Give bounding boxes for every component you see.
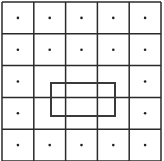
grid-lines — [2, 2, 161, 161]
grid-dot — [17, 17, 20, 20]
grid-dot — [80, 48, 83, 51]
grid-dot — [17, 48, 20, 51]
grid-dot — [144, 48, 147, 51]
dot-grid-diagram — [0, 0, 164, 161]
grid-dot — [17, 144, 20, 147]
grid-dot — [112, 17, 115, 20]
grid-dot — [80, 17, 83, 20]
grid-dot — [144, 112, 147, 115]
grid-dots — [17, 17, 147, 147]
overlay-rectangle — [51, 83, 115, 116]
grid-dot — [48, 48, 51, 51]
grid-dot — [112, 144, 115, 147]
grid-dot — [17, 80, 20, 83]
grid-dot — [48, 144, 51, 147]
grid-dot — [144, 144, 147, 147]
grid-dot — [48, 17, 51, 20]
grid-dot — [17, 112, 20, 115]
grid-dot — [112, 48, 115, 51]
grid-dot — [144, 80, 147, 83]
grid-dot — [144, 17, 147, 20]
grid-dot — [80, 144, 83, 147]
